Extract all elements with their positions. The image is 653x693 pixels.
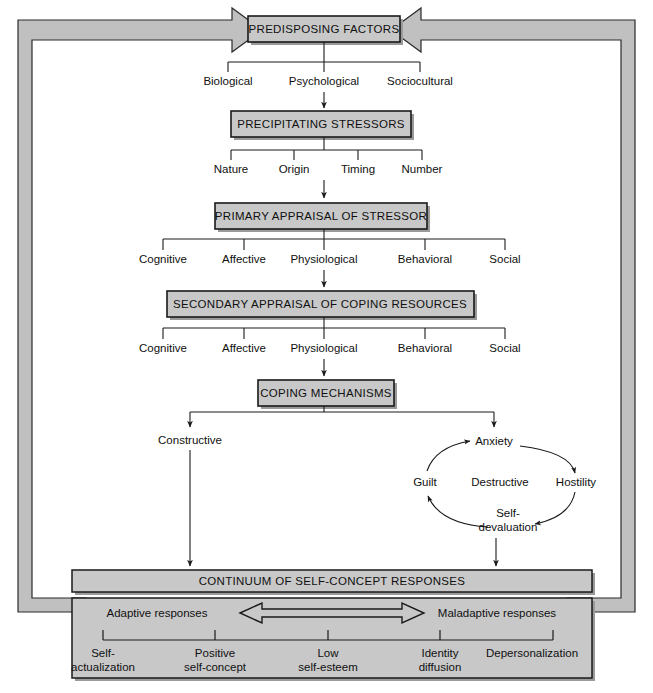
label-maladaptive-responses: Maladaptive responses [438,607,557,619]
cycle-node-guilt: Guilt [413,476,437,488]
scale-point-0-line2: actualization [71,661,135,673]
diagram-page: PREDISPOSING FACTORS Biological Psycholo… [0,0,653,693]
node-predisposing-factors[interactable]: PREDISPOSING FACTORS [248,16,403,45]
node-precipitating-stressors[interactable]: PRECIPITATING STRESSORS [231,111,414,140]
secondary-appraisal-label: SECONDARY APPRAISAL OF COPING RESOURCES [173,298,467,310]
branch-origin: Origin [279,163,310,175]
continuum-bar-label: CONTINUUM OF SELF-CONCEPT RESPONSES [199,575,466,587]
scale-point-1-line2: self-concept [184,661,247,673]
coping-mechanisms-label: COPING MECHANISMS [260,387,392,399]
branch-cognitive-primary: Cognitive [139,253,187,265]
branch-social-secondary: Social [489,342,520,354]
bracket-predisposing [228,42,420,72]
bracket-precipitating [231,137,422,160]
scale-point-0-line1: Self- [91,647,115,659]
cycle-node-hostility: Hostility [556,476,597,488]
branch-affective-secondary: Affective [222,342,266,354]
predisposing-factors-label: PREDISPOSING FACTORS [249,23,400,35]
branch-nature: Nature [214,163,249,175]
scale-point-3-line1: Identity [421,647,458,659]
branch-number: Number [402,163,443,175]
arc-guilt-to-anxiety [427,441,470,471]
branch-affective-primary: Affective [222,253,266,265]
branch-social-primary: Social [489,253,520,265]
branch-biological: Biological [203,75,252,87]
branch-physiological-secondary: Physiological [290,342,357,354]
cycle-center-destructive: Destructive [471,476,529,488]
arc-hostility-to-selfdevaluation [535,492,575,524]
cycle-node-anxiety: Anxiety [475,435,513,447]
primary-appraisal-label: PRIMARY APPRAISAL OF STRESSOR [215,210,427,222]
branch-psychological: Psychological [289,75,359,87]
destructive-cycle: Anxiety Hostility Self- devaluation Guil… [413,435,596,533]
cycle-node-selfdevaluation-line1: Self- [496,507,520,519]
cycle-node-selfdevaluation-line2: devaluation [479,521,538,533]
node-coping-mechanisms[interactable]: COPING MECHANISMS [258,380,397,409]
scale-point-3-line2: diffusion [419,661,462,673]
scale-point-2-line2: self-esteem [298,661,357,673]
branch-behavioral-primary: Behavioral [398,253,452,265]
branch-sociocultural: Sociocultural [387,75,453,87]
scale-point-4-line1: Depersonalization [486,647,578,659]
bracket-primary-appraisal [163,229,505,250]
branch-cognitive-secondary: Cognitive [139,342,187,354]
branch-timing: Timing [341,163,375,175]
branch-behavioral-secondary: Behavioral [398,342,452,354]
label-adaptive-responses: Adaptive responses [106,607,207,619]
node-secondary-appraisal[interactable]: SECONDARY APPRAISAL OF COPING RESOURCES [167,291,477,320]
precipitating-stressors-label: PRECIPITATING STRESSORS [237,118,405,130]
scale-point-1-line1: Positive [195,647,235,659]
label-constructive: Constructive [158,434,222,446]
bracket-coping-split [190,406,494,427]
node-continuum-bar[interactable]: CONTINUUM OF SELF-CONCEPT RESPONSES [72,570,595,595]
arc-anxiety-to-hostility [520,446,575,473]
responses-panel: Adaptive responses Maladaptive responses… [71,598,595,681]
branch-physiological-primary: Physiological [290,253,357,265]
node-primary-appraisal[interactable]: PRIMARY APPRAISAL OF STRESSOR [215,203,430,232]
scale-point-2-line1: Low [317,647,339,659]
bracket-secondary-appraisal [163,317,505,339]
stress-adaptation-diagram: PREDISPOSING FACTORS Biological Psycholo… [0,0,653,693]
